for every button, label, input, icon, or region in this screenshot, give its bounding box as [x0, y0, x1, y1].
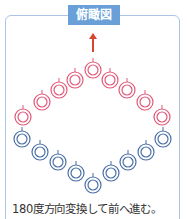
blue-person-icon: [14, 131, 30, 147]
diagram-caption: 180度方向変換して前へ進む。: [12, 200, 161, 216]
blue-person-icon: [155, 131, 171, 147]
blue-person-icon: [138, 144, 154, 160]
arrow-head-icon: [89, 33, 97, 39]
formation-diagram: [0, 0, 187, 219]
